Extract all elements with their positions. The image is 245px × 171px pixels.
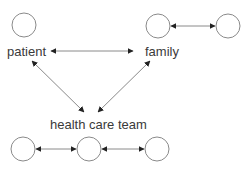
team-family-arrow [98, 61, 150, 112]
team-node-3 [145, 137, 169, 161]
team-node-1 [11, 137, 35, 161]
family-node-2 [216, 14, 240, 38]
family-label: family [145, 44, 179, 59]
patient-node [12, 13, 36, 37]
patient-label: patient [7, 44, 46, 59]
health-care-team-label: health care team [50, 117, 147, 132]
family-node-1 [146, 14, 170, 38]
team-node-2 [77, 137, 101, 161]
relationship-diagram: patient family health care team [0, 0, 245, 171]
team-patient-arrow [32, 61, 84, 112]
